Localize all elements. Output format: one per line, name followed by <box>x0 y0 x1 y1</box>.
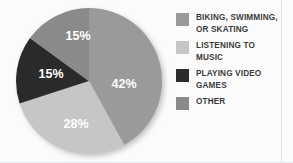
pie-slice-value-label: 15% <box>65 29 90 43</box>
legend-color-swatch <box>176 13 189 26</box>
legend-item-listening-to-music[interactable]: LISTENING TO MUSIC <box>176 40 286 63</box>
bottom-border-rule <box>0 162 293 163</box>
pie-chart-svg: 42%28%15%15% <box>10 2 170 162</box>
legend-color-swatch <box>176 41 189 54</box>
chart-legend: BIKING, SWIMMING, OR SKATINGLISTENING TO… <box>176 12 286 115</box>
legend-item-other[interactable]: OTHER <box>176 96 286 110</box>
pie-chart-figure: 42%28%15%15% BIKING, SWIMMING, OR SKATIN… <box>0 0 293 163</box>
legend-item-label: OTHER <box>196 96 225 108</box>
right-border-rule <box>281 0 282 163</box>
legend-item-label: PLAYING VIDEO GAMES <box>196 68 261 91</box>
legend-color-swatch <box>176 69 189 82</box>
legend-item-playing-video-games[interactable]: PLAYING VIDEO GAMES <box>176 68 286 91</box>
pie-slice-value-label: 15% <box>38 67 63 81</box>
legend-item-label: LISTENING TO MUSIC <box>196 40 255 63</box>
pie-slice-value-label: 42% <box>111 77 136 91</box>
legend-item-biking-swimming-skating[interactable]: BIKING, SWIMMING, OR SKATING <box>176 12 286 35</box>
pie-chart-plot-area: 42%28%15%15% <box>10 2 170 162</box>
legend-item-label: BIKING, SWIMMING, OR SKATING <box>196 12 278 35</box>
legend-color-swatch <box>176 97 189 110</box>
pie-slice-value-label: 28% <box>63 117 88 131</box>
